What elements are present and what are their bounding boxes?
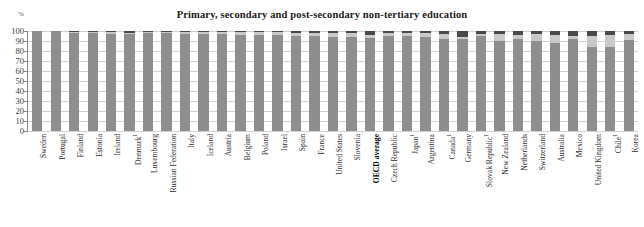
- y-axis-tick: [24, 51, 28, 52]
- bar-luxembourg[interactable]: [143, 31, 153, 131]
- x-axis-label-ireland: Ireland: [114, 134, 122, 156]
- bar-segment-below: [457, 39, 467, 131]
- x-axis-label-poland: Poland: [262, 134, 270, 155]
- y-axis-tick: [24, 31, 28, 32]
- y-axis-tick: [24, 101, 28, 102]
- bar-italy[interactable]: [180, 31, 190, 131]
- bar-segment-below: [587, 47, 597, 131]
- bar-segment-below: [235, 35, 245, 131]
- x-axis-label-slovak-republic: Slovak Republic1: [484, 134, 493, 187]
- x-axis-label-netherlands: Netherlands: [521, 134, 529, 171]
- bar-japan[interactable]: [402, 31, 412, 131]
- x-axis-label-belgium: Belgium: [244, 134, 252, 160]
- bar-segment-mid: [494, 34, 504, 41]
- bar-austria[interactable]: [217, 31, 227, 131]
- bar-segment-below: [254, 35, 264, 131]
- y-axis-tick: [24, 81, 28, 82]
- bar-russian-federation[interactable]: [161, 31, 171, 131]
- bar-segment-below: [568, 39, 578, 131]
- bar-segment-below: [605, 47, 615, 131]
- bar-segment-below: [51, 31, 61, 131]
- bar-iceland[interactable]: [198, 31, 208, 131]
- chart-title: Primary, secondary and post-secondary no…: [0, 9, 644, 20]
- bar-netherlands[interactable]: [513, 31, 523, 131]
- bar-slovenia[interactable]: [346, 31, 356, 131]
- bar-belgium[interactable]: [235, 31, 245, 131]
- bar-segment-below: [88, 33, 98, 131]
- bar-spain[interactable]: [291, 31, 301, 131]
- y-axis-tick-label: 30: [2, 97, 24, 106]
- bar-segment-below: [365, 38, 375, 131]
- gridline: [28, 131, 638, 132]
- x-axis-label-chile: Chile1: [613, 134, 622, 153]
- x-axis-label-slovenia: Slovenia: [354, 134, 362, 161]
- y-axis-unit-label: %: [18, 10, 24, 18]
- x-axis-label-argentina: Argentina: [428, 134, 436, 164]
- bar-germany[interactable]: [457, 31, 467, 131]
- y-axis-tick-label: 20: [2, 107, 24, 116]
- bar-portugal[interactable]: [51, 31, 61, 131]
- bar-argentina[interactable]: [420, 31, 430, 131]
- y-axis-tick-label: 40: [2, 87, 24, 96]
- bar-finland[interactable]: [69, 31, 79, 131]
- x-axis-label-israel: Israel: [281, 134, 289, 151]
- x-axis-label-united-states: United States: [336, 134, 344, 175]
- y-axis-tick-label: 80: [2, 47, 24, 56]
- bar-slovak-republic[interactable]: [476, 31, 486, 131]
- bar-segment-below: [476, 36, 486, 131]
- bar-segment-below: [217, 34, 227, 131]
- bar-israel[interactable]: [272, 31, 282, 131]
- bar-segment-below: [143, 33, 153, 131]
- y-axis-tick: [24, 91, 28, 92]
- bar-segment-below: [272, 35, 282, 131]
- bar-segment-below: [124, 34, 134, 131]
- bar-united-states[interactable]: [328, 31, 338, 131]
- bar-segment-below: [309, 36, 319, 131]
- bar-ireland[interactable]: [106, 31, 116, 131]
- bar-czech-republic[interactable]: [383, 31, 393, 131]
- bar-denmark[interactable]: [124, 31, 134, 131]
- y-axis-tick-label: 50: [2, 77, 24, 86]
- bar-segment-below: [161, 33, 171, 131]
- x-axis-label-canada: Canada1: [447, 134, 456, 159]
- x-axis-label-united-kingdom: United Kingdom: [595, 134, 603, 185]
- x-axis-label-new-zealand: New Zealand: [502, 134, 510, 175]
- x-axis-label-sweden: Sweden: [40, 134, 48, 158]
- bar-segment-below: [513, 39, 523, 131]
- bar-segment-below: [550, 43, 560, 131]
- bar-australia[interactable]: [550, 31, 560, 131]
- x-axis-label-spain: Spain: [299, 134, 307, 151]
- x-axis-label-austria: Austria: [225, 134, 233, 156]
- bar-segment-below: [624, 40, 634, 131]
- x-axis-label-italy: Italy: [188, 134, 196, 148]
- bar-sweden[interactable]: [32, 31, 42, 131]
- bar-poland[interactable]: [254, 31, 264, 131]
- bar-segment-below: [420, 37, 430, 131]
- y-axis-tick: [24, 121, 28, 122]
- bar-segment-mid: [531, 34, 541, 41]
- x-axis-label-switzerland: Switzerland: [539, 134, 547, 170]
- bar-united-kingdom[interactable]: [587, 31, 597, 131]
- bar-canada[interactable]: [439, 31, 449, 131]
- bar-mexico[interactable]: [568, 31, 578, 131]
- bar-switzerland[interactable]: [531, 31, 541, 131]
- bar-chile[interactable]: [605, 31, 615, 131]
- x-axis-label-mexico: Mexico: [576, 134, 584, 157]
- bar-oecd-average[interactable]: [365, 31, 375, 131]
- x-axis-label-estonia: Estonia: [96, 134, 104, 157]
- x-axis-label-france: France: [318, 134, 326, 155]
- y-axis-tick-label: 10: [2, 117, 24, 126]
- x-axis-label-finland: Finland: [77, 134, 85, 157]
- x-axis-label-denmark: Denmark1: [133, 134, 142, 165]
- bar-segment-below: [69, 33, 79, 131]
- bar-segment-below: [328, 37, 338, 131]
- plot-area: [28, 31, 638, 131]
- bar-segment-below: [291, 36, 301, 131]
- bar-segment-below: [32, 31, 42, 131]
- bar-korea[interactable]: [624, 31, 634, 131]
- bar-segment-below: [180, 34, 190, 131]
- bar-estonia[interactable]: [88, 31, 98, 131]
- bar-france[interactable]: [309, 31, 319, 131]
- bar-segment-mid: [587, 36, 597, 47]
- bar-new-zealand[interactable]: [494, 31, 504, 131]
